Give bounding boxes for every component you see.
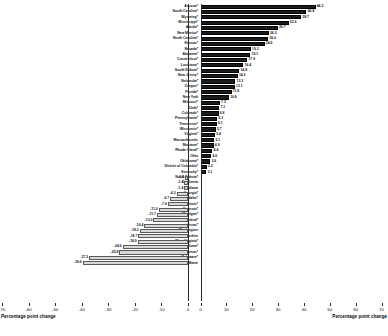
positive-bar-track: 4.9 bbox=[201, 143, 382, 147]
positive-bar-track: 7.3 bbox=[201, 101, 382, 105]
positive-bar-track: 26.0 bbox=[201, 37, 382, 41]
positive-bar bbox=[201, 101, 220, 105]
negative-bar bbox=[177, 192, 188, 196]
negative-bar bbox=[140, 229, 188, 233]
positive-bar-track: 19.1 bbox=[201, 53, 382, 57]
positive-bar-track: 5.4 bbox=[201, 133, 382, 137]
positive-bar-track: 6.8 bbox=[201, 111, 382, 115]
positive-bar-track: 4.0 bbox=[201, 154, 382, 158]
positive-bar bbox=[201, 143, 214, 147]
left-zero-axis-line bbox=[188, 4, 189, 301]
negative-bar bbox=[157, 213, 188, 217]
positive-bar bbox=[201, 95, 229, 99]
left-axis-title: Percentage point change bbox=[1, 314, 56, 319]
negative-bar-track: -18.9 bbox=[0, 240, 188, 244]
right-axis-title: Percentage point change bbox=[332, 314, 387, 319]
right-axis-tick-label: 30 bbox=[276, 307, 281, 312]
negative-bar-track: -1.4 bbox=[0, 181, 188, 185]
positive-bar-track: 5.7 bbox=[201, 127, 382, 131]
right-axis-tick-label: 50 bbox=[327, 307, 332, 312]
right-axis-tick-label: 10 bbox=[224, 307, 229, 312]
left-axis-tick-label: 0 bbox=[187, 307, 189, 312]
negative-bar bbox=[159, 208, 188, 212]
negative-bar-track: -16.4 bbox=[0, 224, 188, 228]
negative-bar bbox=[138, 240, 188, 244]
negative-bar-track: -6.7 bbox=[0, 197, 188, 201]
negative-bar-track: -13.0 bbox=[0, 218, 188, 222]
positive-bar-track: 7.1 bbox=[201, 106, 382, 110]
positive-bar bbox=[201, 37, 268, 41]
negative-bar-track: -1.4 bbox=[0, 186, 188, 190]
positive-bar bbox=[201, 117, 217, 121]
positive-bar bbox=[201, 42, 265, 46]
positive-bar bbox=[201, 85, 235, 89]
positive-bar bbox=[201, 122, 217, 126]
positive-bar-track: 44.3 bbox=[201, 5, 382, 9]
positive-bar-track: 11.8 bbox=[201, 90, 382, 94]
negative-bar bbox=[119, 250, 188, 254]
positive-bar-track: 13.3 bbox=[201, 79, 382, 83]
negative-bar-track: -18.7 bbox=[0, 234, 188, 238]
right-axis-tick-label: 40 bbox=[301, 307, 306, 312]
negative-bar bbox=[83, 261, 188, 265]
positive-bar-track: 6.3 bbox=[201, 117, 382, 121]
negative-bar-track: -24.6 bbox=[0, 245, 188, 249]
positive-bar bbox=[201, 90, 232, 94]
negative-bar-track: -1.1 bbox=[0, 176, 188, 180]
negative-bar-track: -11.0 bbox=[0, 208, 188, 212]
positive-bar bbox=[201, 58, 247, 62]
diverging-bar-chart: Arizona*44.3South Carolina*40.8Wyoming*3… bbox=[0, 0, 388, 336]
negative-bar bbox=[168, 202, 188, 206]
positive-bar bbox=[201, 31, 269, 35]
negative-bar bbox=[144, 224, 188, 228]
positive-bar bbox=[201, 74, 238, 78]
left-axis-tick-label: -60 bbox=[25, 307, 31, 312]
positive-bar bbox=[201, 127, 216, 131]
left-x-axis: Percentage point change -70-60-50-40-30-… bbox=[0, 303, 190, 325]
positive-bar bbox=[201, 15, 301, 19]
positive-bar bbox=[201, 63, 243, 67]
right-axis-tick-label: 70 bbox=[379, 307, 384, 312]
negative-bar bbox=[138, 234, 188, 238]
positive-bar-track: 17.9 bbox=[201, 58, 382, 62]
positive-bar bbox=[201, 138, 214, 142]
right-axis-tick-label: 60 bbox=[353, 307, 358, 312]
positive-bar bbox=[201, 53, 250, 57]
positive-bar bbox=[201, 159, 210, 163]
left-axis-tick-label: -20 bbox=[132, 307, 138, 312]
positive-bar-track: 2.2 bbox=[201, 165, 382, 169]
positive-bar bbox=[201, 133, 215, 137]
positive-bar bbox=[201, 111, 219, 115]
positive-bar bbox=[201, 10, 306, 14]
positive-bar bbox=[201, 165, 207, 169]
positive-bar bbox=[201, 170, 206, 174]
negative-bar-track: -18.2 bbox=[0, 229, 188, 233]
positive-bar-track: 3.6 bbox=[201, 159, 382, 163]
negative-bar bbox=[123, 245, 188, 249]
negative-bar bbox=[153, 218, 188, 222]
negative-bar-track: -37.2 bbox=[0, 256, 188, 260]
bar-value-label: -39.6 bbox=[71, 260, 82, 265]
positive-bar bbox=[201, 154, 211, 158]
positive-bar bbox=[201, 5, 316, 9]
plot-area: Arizona*44.3South Carolina*40.8Wyoming*3… bbox=[0, 4, 388, 300]
left-axis-tick-label: -50 bbox=[52, 307, 58, 312]
right-axis-tick-label: 0 bbox=[199, 307, 201, 312]
positive-bar bbox=[201, 47, 251, 51]
right-axis-tick-label: 20 bbox=[250, 307, 255, 312]
positive-bar-track: 4.4 bbox=[201, 149, 382, 153]
positive-bar bbox=[201, 79, 235, 83]
negative-bar-track: -11.7 bbox=[0, 213, 188, 217]
positive-bar-track: 24.6 bbox=[201, 42, 382, 46]
right-zero-axis-line bbox=[201, 4, 202, 301]
positive-bar-track: 33.9 bbox=[201, 21, 382, 25]
negative-bar-track: -7.6 bbox=[0, 202, 188, 206]
negative-bar bbox=[89, 256, 188, 260]
positive-bar-track: 10.8 bbox=[201, 95, 382, 99]
positive-bar-track: 40.8 bbox=[201, 10, 382, 14]
left-axis-tick-label: -40 bbox=[79, 307, 85, 312]
positive-bar-track: 29.7 bbox=[201, 26, 382, 30]
positive-bar-track: 38.7 bbox=[201, 15, 382, 19]
positive-bar bbox=[201, 69, 239, 73]
negative-bar-track: -25.8 bbox=[0, 250, 188, 254]
